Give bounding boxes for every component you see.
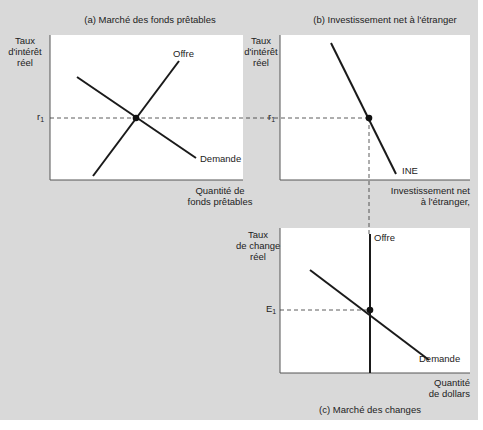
curves (77, 43, 429, 373)
panel-a-equilibrium-dot (133, 115, 140, 122)
panel-c-equilibrium-dot (367, 307, 374, 314)
dashed-guides (50, 118, 370, 310)
axes (50, 35, 470, 373)
diagram-lines (0, 0, 483, 430)
panel-b-ine-curve (331, 43, 396, 174)
equilibrium-points (133, 115, 374, 314)
panel-b-equilibrium-dot (366, 115, 373, 122)
